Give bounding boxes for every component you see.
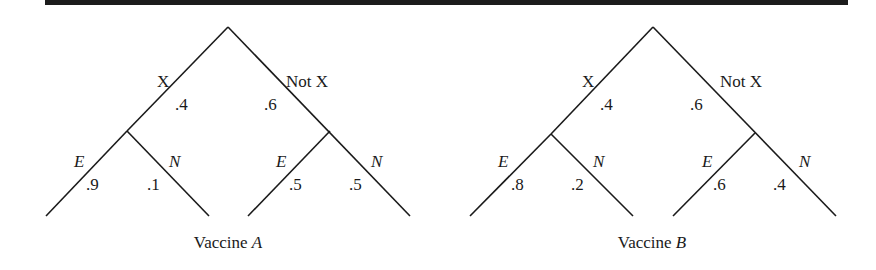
branch-x	[551, 27, 653, 134]
branch-x-n	[551, 134, 633, 216]
tree-a-x-e-label: E	[74, 153, 84, 170]
tree-a-notx-label: Not X	[286, 73, 328, 90]
tree-a-x-e-prob: .9	[86, 176, 99, 193]
tree-a-notx-n-label: N	[371, 153, 382, 170]
branch-notx-e	[248, 131, 330, 216]
tree-b-x-e-prob: .8	[511, 176, 524, 193]
tree-b-x-n-label: N	[593, 153, 604, 170]
tree-b-notx-label: Not X	[720, 73, 762, 90]
tree-a-notx-e-label: E	[276, 153, 286, 170]
tree-b-notx-e-label: E	[702, 153, 712, 170]
tree-a-notx-n-prob: .5	[349, 176, 362, 193]
caption-prefix: Vaccine	[194, 233, 252, 252]
tree-b-caption: Vaccine B	[618, 234, 686, 251]
caption-variable: B	[676, 233, 686, 252]
tree-a-x-label: X	[157, 73, 169, 90]
branch-x-n	[127, 131, 209, 216]
tree-b-notx-n-prob: .4	[773, 176, 786, 193]
tree-b-x-label: X	[582, 73, 594, 90]
tree-b-x-n-prob: .2	[571, 176, 584, 193]
branch-x	[127, 27, 228, 131]
tree-a-p-x: .4	[175, 96, 188, 113]
probability-trees	[0, 0, 876, 270]
branch-not-x	[653, 27, 836, 216]
branch-not-x	[228, 27, 410, 216]
caption-prefix: Vaccine	[618, 233, 676, 252]
tree-a-x-n-label: N	[169, 153, 180, 170]
tree-b-p-x: .4	[600, 96, 613, 113]
tree-a-p-notx: .6	[264, 96, 277, 113]
tree-a-caption: Vaccine A	[194, 234, 262, 251]
tree-b-p-notx: .6	[690, 96, 703, 113]
branch-x-e	[46, 131, 127, 216]
tree-b-notx-e-prob: .6	[713, 176, 726, 193]
caption-variable: A	[252, 233, 262, 252]
tree-a-notx-e-prob: .5	[289, 176, 302, 193]
tree-a-x-n-prob: .1	[147, 176, 160, 193]
tree-b-x-e-label: E	[498, 153, 508, 170]
tree-b-notx-n-label: N	[799, 153, 810, 170]
